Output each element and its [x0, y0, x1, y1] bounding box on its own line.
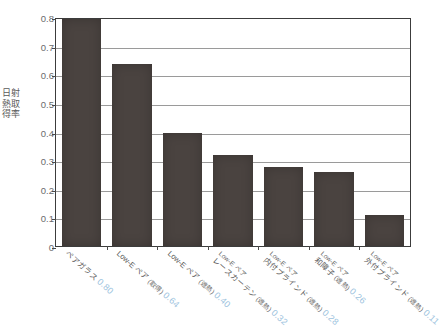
y-tick-label: 0.8	[20, 13, 54, 24]
bar[interactable]	[264, 167, 303, 246]
bar[interactable]	[62, 19, 101, 246]
bar-slot	[359, 19, 410, 246]
bar[interactable]	[213, 155, 252, 246]
plot-area	[55, 18, 411, 247]
bar[interactable]	[112, 64, 151, 246]
y-tick-label: 0.7	[20, 41, 54, 52]
bar-slot	[208, 19, 259, 246]
bar-slot	[309, 19, 360, 246]
bar-slot	[258, 19, 309, 246]
y-tick-label: 0.5	[20, 98, 54, 109]
bar-slot	[157, 19, 208, 246]
bar-slot	[107, 19, 158, 246]
bar[interactable]	[163, 133, 202, 247]
y-tick-label: 0.6	[20, 70, 54, 81]
bar-series	[56, 19, 410, 246]
bar[interactable]	[365, 215, 404, 246]
bar-slot	[56, 19, 107, 246]
x-axis-category-labels: ペアガラス 0.80Low-E ペア (取得) 0.64Low-E ペア (遮熱…	[55, 249, 411, 336]
bar[interactable]	[314, 172, 353, 246]
x-category-label: Low-E ペア外付ブラインド (遮熱) 0.11	[363, 249, 443, 327]
y-tick-label: 0.1	[20, 213, 54, 224]
y-tick-label: 0.4	[20, 127, 54, 138]
y-tick-label: 0.2	[20, 184, 54, 195]
y-axis-tick-labels: 0.80.70.60.50.40.30.20.10	[18, 0, 54, 336]
y-tick-label: 0	[20, 242, 54, 253]
x-category-label: ペアガラス 0.80	[64, 249, 115, 296]
y-tick-label: 0.3	[20, 156, 54, 167]
